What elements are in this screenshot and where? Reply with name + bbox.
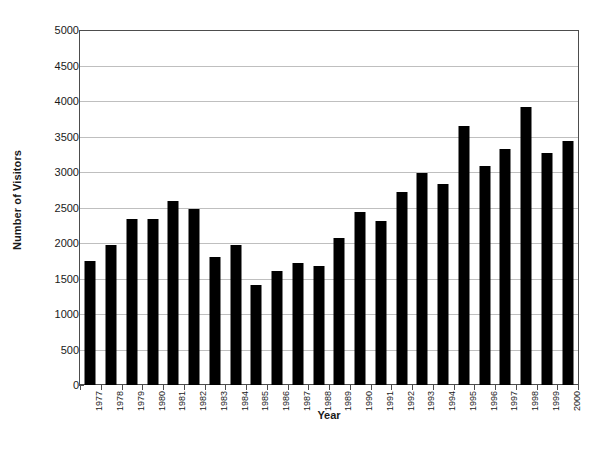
bar-slot [350,31,371,385]
x-tick-mark [329,385,330,390]
bar [500,149,511,385]
bar [126,219,137,385]
bars-layer [80,31,578,385]
y-axis-ticks: 0500100015002000250030003500400045005000 [25,30,79,385]
x-tick-mark [433,385,434,390]
bar-slot [308,31,329,385]
bar [541,153,552,385]
bar-slot [246,31,267,385]
bar [355,212,366,385]
bar-slot [412,31,433,385]
bar [106,245,117,385]
bar [272,271,283,385]
bar-slot [267,31,288,385]
bar-slot [433,31,454,385]
x-tick-mark [142,385,143,390]
x-tick-mark [412,385,413,390]
x-tick-mark [205,385,206,390]
x-tick-mark [246,385,247,390]
bar-slot [474,31,495,385]
bar-slot [371,31,392,385]
bar-slot [288,31,309,385]
x-tick-mark [122,385,123,390]
x-tick-mark [101,385,102,390]
bar-slot [454,31,475,385]
bar [313,266,324,385]
bar-slot [101,31,122,385]
bar-slot [163,31,184,385]
y-tick-label: 2500 [33,202,79,214]
bar-slot [122,31,143,385]
y-tick-label: 2000 [33,237,79,249]
bar [417,173,428,385]
x-tick-mark [288,385,289,390]
bar-slot [495,31,516,385]
x-tick-mark [163,385,164,390]
bar [85,261,96,385]
x-tick-mark [391,385,392,390]
x-tick-mark [454,385,455,390]
x-tick-mark [557,385,558,390]
bar [562,141,573,385]
bar-slot [537,31,558,385]
bar [292,263,303,385]
bar [438,184,449,385]
x-tick-mark [371,385,372,390]
x-tick-mark [184,385,185,390]
y-tick-label: 4000 [33,95,79,107]
y-tick-label: 1000 [33,308,79,320]
bar [458,126,469,385]
bar [251,285,262,385]
y-tick-label: 3500 [33,131,79,143]
x-tick-mark [350,385,351,390]
x-tick-mark [80,385,81,390]
bar-slot [184,31,205,385]
bar [189,209,200,385]
bar-slot [80,31,101,385]
x-tick-mark [495,385,496,390]
x-tick-mark [537,385,538,390]
y-tick-label: 500 [33,344,79,356]
x-tick-mark [225,385,226,390]
y-tick-label: 1500 [33,273,79,285]
bar [230,245,241,385]
x-tick-mark [516,385,517,390]
bar-slot [391,31,412,385]
bar-chart: Number of Visitors 050010001500200025003… [0,0,609,451]
bar [209,257,220,385]
bar [168,201,179,385]
bar [521,107,532,385]
x-tick-mark [308,385,309,390]
x-tick-mark [474,385,475,390]
x-tick-mark [267,385,268,390]
x-axis-title: Year [79,409,579,421]
bar-slot [205,31,226,385]
y-tick-label: 3000 [33,166,79,178]
y-tick-label: 0 [33,379,79,391]
bar-slot [516,31,537,385]
bar [479,166,490,385]
bar-slot [142,31,163,385]
bar-slot [557,31,578,385]
y-axis-title-label: Number of Visitors [11,150,23,250]
y-tick-label: 4500 [33,60,79,72]
x-tick-mark [578,385,579,390]
y-tick-label: 5000 [33,24,79,36]
bar [334,238,345,385]
bar [147,219,158,385]
bar-slot [329,31,350,385]
bar-slot [225,31,246,385]
bar [396,192,407,385]
bar [375,221,386,385]
